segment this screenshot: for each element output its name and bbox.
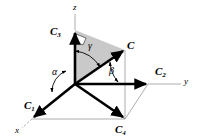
axis-label-z: z <box>73 3 77 12</box>
vector-C4-arrow <box>75 84 123 117</box>
vector-C1-arrow <box>34 84 75 117</box>
figure-canvas <box>0 0 197 140</box>
vector-label-C2: C2 <box>155 66 166 77</box>
vector-label-C4-sub: 4 <box>122 129 126 137</box>
vector-label-C4: C4 <box>115 124 126 135</box>
axis-label-y: y <box>184 77 188 86</box>
angle-label-beta: β <box>109 66 114 76</box>
vector-label-C: C <box>127 40 134 51</box>
vector-label-C1-sub: 1 <box>31 105 35 113</box>
angle-label-alpha: α <box>52 67 57 77</box>
axis-label-x: x <box>15 126 19 135</box>
vector-label-C2-sub: 2 <box>162 71 166 79</box>
angle-label-gamma: γ <box>88 41 92 51</box>
vector-label-C1: C1 <box>24 100 35 111</box>
vector-label-C3-sub: 3 <box>57 31 61 39</box>
vector-label-C-text: C <box>127 39 134 51</box>
vector-label-C3: C3 <box>50 26 61 37</box>
vector-direction-angles-figure: z y x C C1 C2 C3 C4 α β γ <box>0 0 197 140</box>
